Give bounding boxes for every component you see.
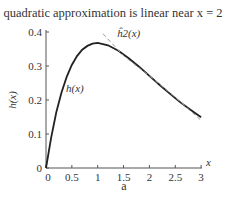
svg-text:0.4: 0.4 — [28, 26, 42, 38]
y-axis-label: h(x) — [6, 91, 19, 109]
svg-text:2: 2 — [147, 171, 153, 183]
chart: quadratic approximation is linear near x… — [0, 0, 227, 211]
svg-text:0: 0 — [45, 171, 51, 183]
h-curve-label: h(x) — [66, 82, 84, 95]
svg-text:1: 1 — [95, 171, 101, 183]
svg-text:0.2: 0.2 — [28, 94, 42, 106]
x-axis-label: x — [205, 156, 211, 168]
h-curve — [46, 43, 201, 168]
svg-text:0.3: 0.3 — [28, 60, 42, 72]
chart-caption: a — [121, 179, 127, 193]
svg-text:0.1: 0.1 — [28, 128, 42, 140]
chart-title: quadratic approximation is linear near x… — [3, 6, 222, 20]
h2-curve-label: ĥ2(x) — [117, 27, 141, 40]
svg-text:0.5: 0.5 — [65, 171, 79, 183]
svg-text:0: 0 — [37, 162, 43, 174]
svg-text:2.5: 2.5 — [168, 171, 182, 183]
svg-text:3: 3 — [198, 171, 204, 183]
